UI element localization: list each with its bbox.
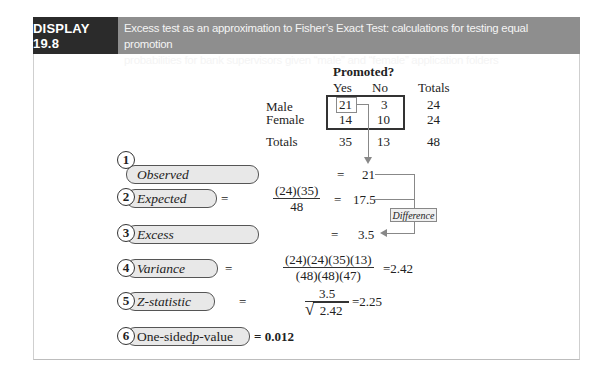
step-3-equals: = xyxy=(331,227,338,243)
step-2-numerator: (24)(35) xyxy=(273,183,320,199)
arrow-down-icon xyxy=(364,157,372,164)
step-4-numerator: (24)(24)(35)(13) xyxy=(283,252,374,268)
grand-total: 48 xyxy=(427,134,440,150)
step-4-number: 4 xyxy=(117,259,135,277)
step-5-equals: = xyxy=(239,294,246,310)
step-3-result: 3.5 xyxy=(358,227,374,243)
step-5-denominator: 2.42 xyxy=(313,302,349,318)
cell-female-total: 24 xyxy=(427,112,440,128)
step-4-label: Variance xyxy=(126,259,218,278)
step-4-result: =2.42 xyxy=(383,261,413,277)
step-4-equals: = xyxy=(225,261,232,277)
row-label-female: Female xyxy=(266,112,304,128)
bracket-line xyxy=(374,199,414,200)
step-6-number: 6 xyxy=(117,327,135,345)
step-2-number: 2 xyxy=(117,188,135,206)
col-header-no: No xyxy=(372,80,388,96)
col-header-yes: Yes xyxy=(333,80,352,96)
caption-line-1: Excess test as an approximation to Fishe… xyxy=(124,20,574,52)
step-6-label: One-sided p-value xyxy=(126,327,250,346)
display-label: DISPLAY 19.8 xyxy=(33,17,118,54)
step-1-result: 21 xyxy=(362,167,375,183)
difference-label: Difference xyxy=(390,208,437,222)
step-6-label-prefix: One-sided xyxy=(137,329,192,345)
step-6-label-p: p xyxy=(192,329,199,345)
step-4-fraction: (24)(24)(35)(13) (48)(48)(47) xyxy=(283,252,374,283)
total-no: 13 xyxy=(377,134,390,150)
step-6-result: = 0.012 xyxy=(254,329,294,345)
step-2-result: 17.5 xyxy=(353,192,376,208)
step-5-number: 5 xyxy=(117,292,135,310)
step-2-denominator: 48 xyxy=(273,199,320,214)
display-caption: Excess test as an approximation to Fishe… xyxy=(118,17,580,54)
step-2-fraction: (24)(35) 48 xyxy=(273,183,320,214)
bracket-line xyxy=(386,233,415,234)
step-4-denominator: (48)(48)(47) xyxy=(283,268,374,283)
step-3-number: 3 xyxy=(117,224,135,242)
sqrt-symbol: √ xyxy=(305,300,314,320)
col-header-totals: Totals xyxy=(418,80,450,96)
step-2-equals-2: = xyxy=(334,192,341,208)
total-yes: 35 xyxy=(339,134,352,150)
table-title: Promoted? xyxy=(333,64,394,80)
bracket-line xyxy=(375,174,414,175)
cell-male-total: 24 xyxy=(427,97,440,113)
step-5-result: =2.25 xyxy=(352,294,382,310)
row-label-totals: Totals xyxy=(266,134,298,150)
step-5-label: Z-statistic xyxy=(126,292,215,311)
step-2-label: Expected xyxy=(126,189,217,208)
cell-female-no: 10 xyxy=(377,112,390,128)
step-1-equals: = xyxy=(337,167,344,183)
cell-female-yes: 14 xyxy=(339,112,352,128)
cell-male-yes: 21 xyxy=(339,97,352,113)
bracket-line xyxy=(414,174,415,234)
cell-male-no: 3 xyxy=(381,97,388,113)
step-3-label: Excess xyxy=(126,225,259,244)
step-2-equals: = xyxy=(221,191,228,207)
step-1-label: Observed xyxy=(126,165,259,184)
step-1-number: 1 xyxy=(117,151,135,169)
connector-line xyxy=(368,104,369,158)
connector-line xyxy=(357,104,368,105)
step-6-label-suffix: -value xyxy=(199,329,233,345)
arrow-left-icon xyxy=(380,229,387,237)
